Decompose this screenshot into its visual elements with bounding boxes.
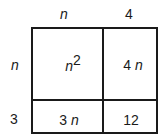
cell-4n-coef: 4: [123, 57, 131, 73]
cell-4n: 4 n: [113, 58, 153, 72]
cell-n-squared: n2: [53, 59, 93, 73]
area-model-grid: n2 4 n 3 n 12: [31, 27, 158, 134]
cell-3n: 3 n: [47, 113, 91, 127]
column-header-n: n: [57, 7, 71, 21]
cell-4n-var: n: [135, 57, 143, 73]
cell-n-squared-exponent: 2: [73, 52, 81, 68]
column-header-4: 4: [122, 7, 136, 21]
cell-3n-coef: 3: [59, 112, 67, 128]
cell-12: 12: [113, 113, 149, 127]
cell-n-squared-base: n: [65, 58, 73, 74]
horizontal-divider: [33, 99, 156, 101]
row-header-n: n: [8, 58, 22, 72]
cell-3n-var: n: [71, 112, 79, 128]
row-header-3: 3: [7, 112, 21, 126]
vertical-divider: [102, 29, 104, 132]
